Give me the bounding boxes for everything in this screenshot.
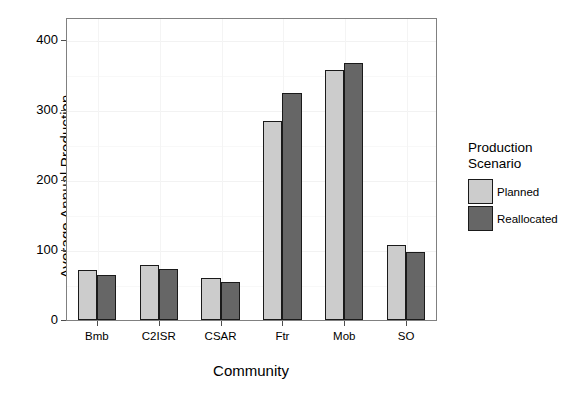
bar — [97, 275, 116, 321]
legend-swatch — [468, 179, 493, 204]
plot-panel — [66, 18, 437, 321]
x-tick-mark — [282, 321, 283, 326]
bar — [221, 282, 240, 320]
gridline-minor — [67, 286, 436, 287]
bar — [344, 63, 363, 320]
bar — [201, 278, 220, 320]
gridline-minor — [67, 216, 436, 217]
bar — [387, 245, 406, 320]
bar — [282, 93, 301, 320]
bar-chart: Average Annual Production 0100200300400 … — [0, 0, 579, 396]
y-tick-label: 200 — [18, 172, 58, 187]
bar — [78, 270, 97, 320]
gridline-vertical — [222, 19, 223, 320]
x-tick-mark — [344, 321, 345, 326]
x-tick-label: Mob — [309, 330, 379, 342]
y-tick-label: 400 — [18, 32, 58, 47]
x-tick-label: CSAR — [186, 330, 256, 342]
legend-title: Production Scenario — [468, 140, 576, 171]
legend-entry: Reallocated — [468, 205, 576, 232]
x-tick-mark — [406, 321, 407, 326]
y-tick-mark — [61, 40, 66, 41]
gridline-minor — [67, 146, 436, 147]
x-tick-label: C2ISR — [124, 330, 194, 342]
y-tick-label: 300 — [18, 102, 58, 117]
x-tick-label: Bmb — [62, 330, 132, 342]
gridline-major — [67, 251, 436, 252]
bar — [263, 121, 282, 320]
bar — [325, 70, 344, 320]
y-tick-mark — [61, 110, 66, 111]
gridline-major — [67, 111, 436, 112]
legend-label: Reallocated — [497, 213, 558, 225]
gridline-major — [67, 41, 436, 42]
bar — [140, 265, 159, 320]
plot-area — [67, 19, 436, 320]
bar — [406, 252, 425, 320]
legend: Production Scenario PlannedReallocated — [468, 140, 576, 232]
bar — [159, 269, 178, 320]
legend-label: Planned — [497, 186, 539, 198]
y-tick-mark — [61, 180, 66, 181]
y-tick-label: 0 — [18, 312, 58, 327]
x-tick-mark — [221, 321, 222, 326]
legend-swatch — [468, 206, 493, 231]
x-axis-title: Community — [66, 362, 436, 379]
y-tick-mark — [61, 320, 66, 321]
gridline-major — [67, 181, 436, 182]
x-tick-mark — [97, 321, 98, 326]
gridline-minor — [67, 76, 436, 77]
x-tick-label: SO — [371, 330, 441, 342]
legend-entry: Planned — [468, 178, 576, 205]
y-tick-label: 100 — [18, 242, 58, 257]
x-tick-label: Ftr — [247, 330, 317, 342]
legend-entries: PlannedReallocated — [468, 178, 576, 232]
y-tick-mark — [61, 250, 66, 251]
x-tick-mark — [159, 321, 160, 326]
